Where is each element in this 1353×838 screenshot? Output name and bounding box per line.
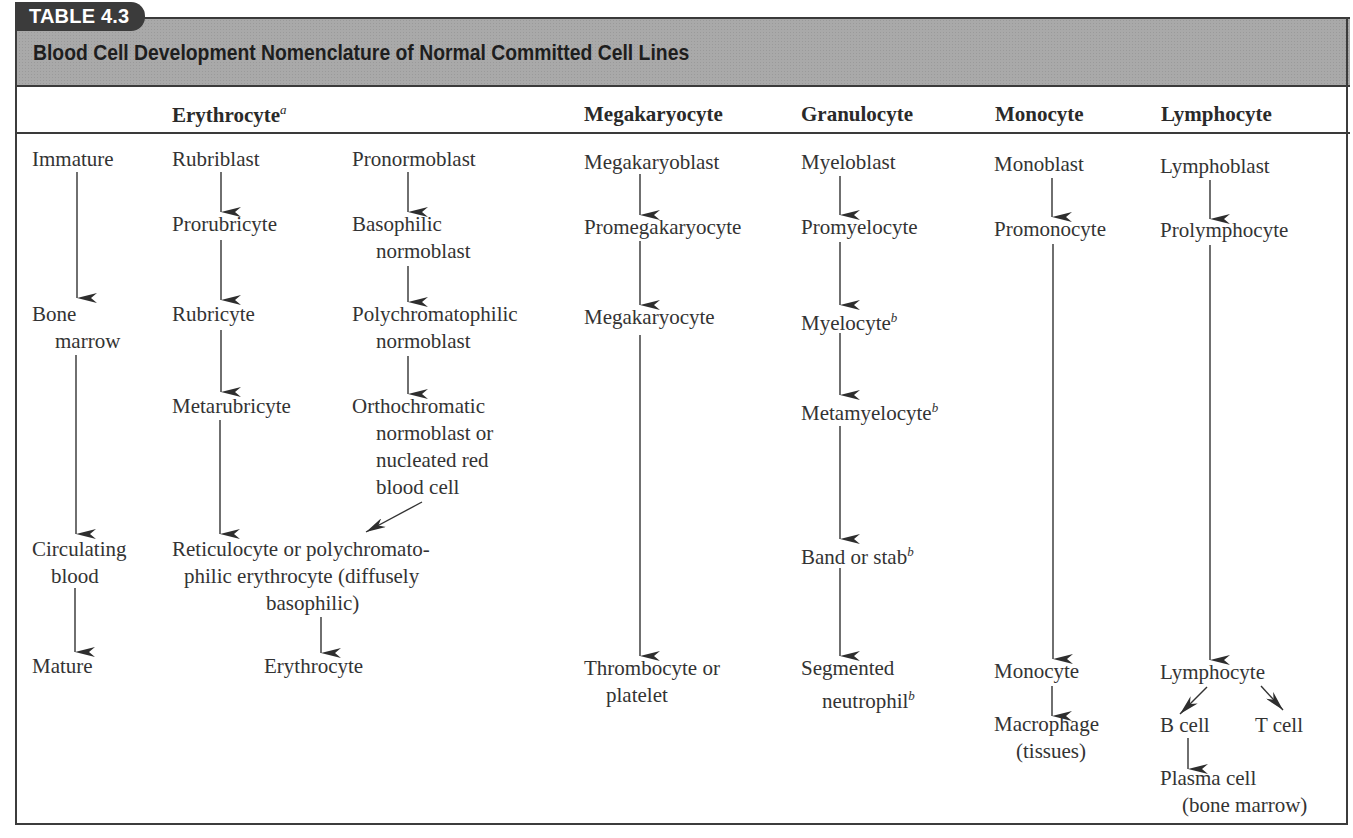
table-title: Blood Cell Development Nomenclature of N… (33, 40, 689, 66)
cell-b-cell: B cell (1160, 712, 1210, 739)
header-divider (15, 132, 1350, 134)
cell-segmented-neutrophil: Segmentedneutrophilb (801, 655, 915, 715)
cell-reticulocyte: Reticulocyte or polychromato-philic eryt… (172, 536, 430, 617)
cell-promyelocyte: Promyelocyte (801, 214, 918, 241)
column-header-granulocyte: Granulocyte (801, 102, 913, 127)
cell-macrophage: Macrophage(tissues) (994, 711, 1099, 765)
cell-metarubricyte: Metarubricyte (172, 393, 291, 420)
cell-promegakaryocyte: Promegakaryocyte (584, 214, 741, 241)
cell-myeloblast: Myeloblast (801, 149, 896, 176)
column-header-erythrocyte: Erythrocytea (172, 102, 287, 128)
cell-t-cell: T cell (1255, 712, 1303, 739)
table-label: TABLE 4.3 (15, 2, 145, 31)
cell-plasma-cell: Plasma cell(bone marrow) (1160, 765, 1307, 819)
stage-immature: Immature (32, 146, 114, 173)
cell-prolymphocyte: Prolymphocyte (1160, 217, 1288, 244)
cell-myelocyte: Myelocyteb (801, 304, 897, 337)
cell-basophilic-normoblast: Basophilicnormoblast (352, 211, 471, 265)
stage-circulating-blood: Circulatingblood (32, 536, 126, 590)
cell-monocyte: Monocyte (994, 658, 1079, 685)
cell-orthochromatic-normoblast: Orthochromaticnormoblast ornucleated red… (352, 393, 493, 501)
cell-rubriblast: Rubriblast (172, 146, 260, 173)
cell-metamyelocyte: Metamyelocyteb (801, 394, 938, 427)
cell-lymphoblast: Lymphoblast (1160, 153, 1270, 180)
column-header-megakaryocyte: Megakaryocyte (584, 102, 723, 127)
cell-megakaryocyte: Megakaryocyte (584, 304, 715, 331)
cell-rubricyte: Rubricyte (172, 301, 255, 328)
column-header-monocyte: Monocyte (995, 102, 1084, 127)
cell-monoblast: Monoblast (994, 151, 1084, 178)
cell-erythrocyte: Erythrocyte (264, 653, 363, 680)
cell-pronormoblast: Pronormoblast (352, 146, 476, 173)
cell-megakaryoblast: Megakaryoblast (584, 149, 719, 176)
cell-lymphocyte: Lymphocyte (1160, 659, 1265, 686)
cell-promonocyte: Promonocyte (994, 216, 1106, 243)
cell-thrombocyte: Thrombocyte orplatelet (584, 655, 720, 709)
cell-polychromatophilic-normoblast: Polychromatophilicnormoblast (352, 301, 518, 355)
stage-bone-marrow: Bonemarrow (32, 301, 120, 355)
column-header-lymphocyte: Lymphocyte (1161, 102, 1272, 127)
cell-prorubricyte: Prorubricyte (172, 211, 277, 238)
cell-band: Band or stabb (801, 538, 914, 571)
stage-mature: Mature (32, 653, 93, 680)
